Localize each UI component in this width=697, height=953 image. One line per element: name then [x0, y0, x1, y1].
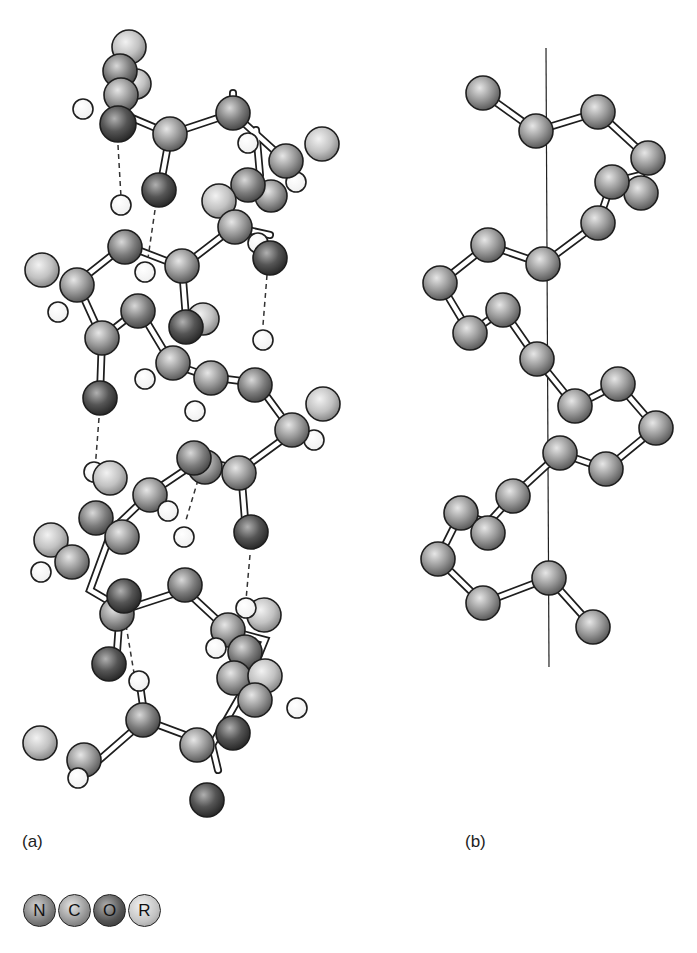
legend-oxygen: O: [93, 894, 126, 927]
legend-side-chain: R: [128, 894, 161, 927]
atoms-a: [23, 30, 340, 817]
legend-side-chain-symbol: R: [138, 901, 150, 921]
panel-b-trace: [421, 48, 673, 667]
legend-nitrogen: N: [23, 894, 56, 927]
legend-carbon: C: [58, 894, 91, 927]
panel-a-model: [23, 30, 340, 817]
atom-legend: N C O R: [23, 894, 161, 927]
legend-nitrogen-symbol: N: [33, 901, 45, 921]
legend-carbon-symbol: C: [68, 901, 80, 921]
helix-figure: [0, 0, 697, 953]
legend-oxygen-symbol: O: [103, 901, 116, 921]
panel-label-b: (b): [465, 832, 486, 852]
panel-label-a: (a): [22, 832, 43, 852]
